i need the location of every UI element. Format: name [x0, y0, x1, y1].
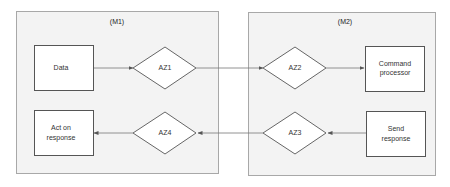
node-command-processor-label-line2: processor [380, 69, 411, 77]
node-send-response-label-line1: Send [388, 125, 404, 132]
decision-az3-label: AZ3 [289, 129, 302, 136]
module-m1-label: (M1) [110, 18, 124, 26]
diagram-canvas: (M1) (M2) Data AZ1 AZ2 Command processor… [0, 0, 450, 187]
decision-az1-label: AZ1 [159, 64, 172, 71]
node-command-processor-label-line1: Command [379, 60, 411, 67]
node-act-on-response-label-line1: Act on [51, 124, 71, 131]
node-act-on-response: Act on response [35, 111, 94, 156]
decision-az4-label: AZ4 [159, 129, 172, 136]
node-send-response-label-line2: response [382, 135, 411, 143]
node-command-processor: Command processor [366, 47, 425, 92]
node-data-label: Data [54, 64, 69, 71]
node-act-on-response-label-line2: response [47, 134, 76, 142]
decision-az2-label: AZ2 [289, 64, 302, 71]
node-send-response: Send response [367, 112, 426, 157]
module-m2-label: (M2) [338, 18, 352, 26]
node-data: Data [35, 46, 94, 91]
